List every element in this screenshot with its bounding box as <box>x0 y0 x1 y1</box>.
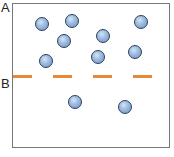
particle-icon <box>96 29 110 43</box>
dash-segment <box>13 75 32 78</box>
label-b: B <box>1 77 10 90</box>
dash-segment <box>53 75 72 78</box>
particle-icon <box>68 95 82 109</box>
particle-icon <box>65 14 79 28</box>
dash-segment <box>93 75 112 78</box>
label-a: A <box>1 1 10 14</box>
particle-icon <box>35 17 49 31</box>
dash-segment <box>133 75 152 78</box>
particle-icon <box>57 34 71 48</box>
particle-icon <box>91 50 105 64</box>
particle-icon <box>118 100 132 114</box>
particle-icon <box>134 15 148 29</box>
particle-icon <box>39 54 53 68</box>
particle-icon <box>128 45 142 59</box>
